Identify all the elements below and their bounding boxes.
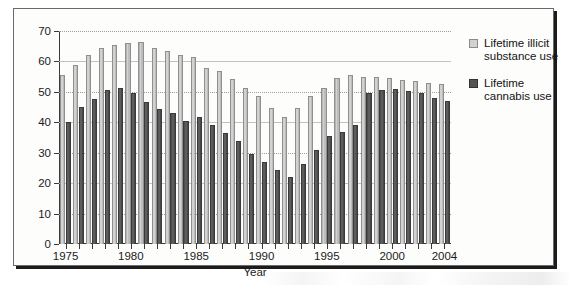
x-tick-1996: [340, 244, 341, 249]
bar-illicit-1989: [243, 88, 248, 244]
plot-wrap: 010203040506070 197519801985199019952000…: [59, 31, 451, 244]
x-tick-label-1985: 1985: [183, 250, 209, 262]
legend-label-cannabis: Lifetime cannabis use: [484, 77, 565, 103]
x-tick-1993: [301, 244, 302, 249]
bar-cannabis-1993: [301, 164, 306, 244]
bar-illicit-1991: [269, 108, 274, 244]
x-tick-1995: [327, 244, 328, 249]
y-tick-0: [54, 244, 59, 245]
bar-cannabis-1998: [366, 93, 371, 244]
bar-illicit-1977: [86, 55, 91, 244]
x-tick-2000: [392, 244, 393, 249]
y-tick-20: [54, 183, 59, 184]
x-tick-1978: [105, 244, 106, 249]
x-tick-label-1975: 1975: [53, 250, 79, 262]
y-tick-label-10: 10: [38, 208, 51, 220]
bar-illicit-1981: [138, 42, 143, 244]
bar-cannabis-1983: [170, 113, 175, 244]
bar-cannabis-1977: [92, 99, 97, 244]
bar-cannabis-1982: [157, 109, 162, 244]
bar-illicit-1976: [73, 65, 78, 244]
bar-cannabis-1984: [183, 121, 188, 244]
x-tick-label-1995: 1995: [314, 250, 340, 262]
bar-cannabis-2002: [419, 93, 424, 244]
bar-cannabis-1986: [210, 125, 215, 244]
bar-illicit-1985: [191, 57, 196, 244]
y-tick-70: [54, 31, 59, 32]
x-tick-1980: [131, 244, 132, 249]
bar-illicit-1998: [361, 77, 366, 244]
bar-illicit-1990: [256, 96, 261, 244]
x-tick-1988: [235, 244, 236, 249]
bar-illicit-1982: [152, 48, 157, 244]
bar-cannabis-1980: [131, 93, 136, 244]
gridline-70: [59, 31, 451, 32]
bar-illicit-1979: [112, 45, 117, 244]
legend-swatch-light-icon: [469, 39, 478, 48]
bar-illicit-1995: [321, 88, 326, 244]
x-tick-label-1990: 1990: [249, 250, 275, 262]
bar-cannabis-1990: [262, 162, 267, 244]
bar-cannabis-2001: [406, 91, 411, 244]
y-tick-label-70: 70: [38, 25, 51, 37]
bar-cannabis-1994: [314, 150, 319, 244]
x-tick-1975: [66, 244, 67, 249]
bar-illicit-2000: [387, 78, 392, 244]
x-tick-1990: [262, 244, 263, 249]
x-tick-1987: [222, 244, 223, 249]
bar-illicit-1983: [165, 51, 170, 244]
x-tick-1999: [379, 244, 380, 249]
y-tick-label-0: 0: [45, 238, 51, 250]
x-tick-1985: [196, 244, 197, 249]
x-tick-2001: [405, 244, 406, 249]
bar-illicit-1996: [334, 78, 339, 244]
y-tick-10: [54, 214, 59, 215]
bar-illicit-1986: [204, 68, 209, 244]
bar-illicit-1987: [217, 71, 222, 244]
x-tick-1976: [79, 244, 80, 249]
bar-cannabis-1976: [79, 107, 84, 244]
bar-cannabis-1987: [223, 133, 228, 244]
x-tick-1981: [144, 244, 145, 249]
x-tick-label-2000: 2000: [379, 250, 405, 262]
y-tick-label-50: 50: [38, 86, 51, 98]
legend-label-illicit: Lifetime illicit substance use: [484, 37, 565, 63]
chart-legend: Lifetime illicit substance use Lifetime …: [469, 37, 565, 117]
bar-illicit-2002: [413, 81, 418, 244]
x-tick-2004: [444, 244, 445, 249]
bar-illicit-2003: [426, 83, 431, 244]
scan-bleed-artifact: [0, 272, 571, 285]
x-tick-2003: [431, 244, 432, 249]
bar-illicit-2004: [439, 84, 444, 244]
x-tick-1986: [209, 244, 210, 249]
y-tick-50: [54, 92, 59, 93]
bar-cannabis-1989: [249, 154, 254, 244]
bar-cannabis-2004: [445, 101, 450, 244]
y-tick-60: [54, 61, 59, 62]
bar-cannabis-2003: [432, 98, 437, 244]
bar-cannabis-1981: [144, 102, 149, 244]
x-tick-1991: [275, 244, 276, 249]
bar-illicit-1997: [348, 75, 353, 244]
bar-illicit-1980: [125, 43, 130, 244]
bar-illicit-1999: [374, 77, 379, 244]
bar-cannabis-1991: [275, 170, 280, 244]
gridline-60: [59, 61, 451, 62]
x-tick-1997: [353, 244, 354, 249]
figure-frame: 010203040506070 197519801985199019952000…: [13, 8, 554, 266]
x-tick-1979: [118, 244, 119, 249]
bar-illicit-1975: [60, 75, 65, 244]
bar-illicit-1978: [99, 48, 104, 244]
bar-cannabis-1975: [66, 122, 71, 244]
y-tick-label-20: 20: [38, 177, 51, 189]
x-tick-1977: [92, 244, 93, 249]
legend-item-illicit: Lifetime illicit substance use: [469, 37, 565, 63]
x-tick-label-2004: 2004: [432, 250, 458, 262]
x-tick-label-1980: 1980: [118, 250, 144, 262]
bar-cannabis-1988: [236, 141, 241, 244]
x-tick-1998: [366, 244, 367, 249]
bar-illicit-1994: [308, 96, 313, 244]
bar-illicit-1988: [230, 79, 235, 244]
bar-cannabis-1985: [197, 117, 202, 244]
y-tick-label-30: 30: [38, 147, 51, 159]
